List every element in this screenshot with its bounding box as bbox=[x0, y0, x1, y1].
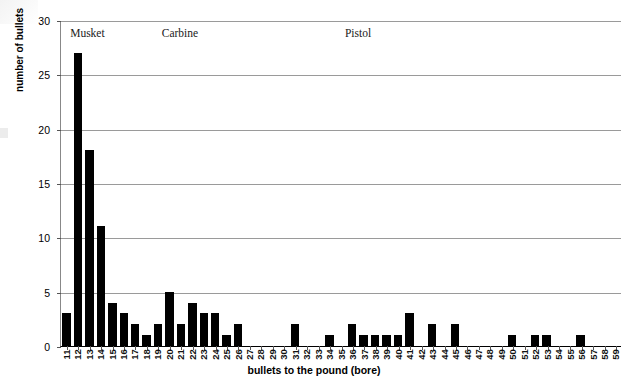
bar-26 bbox=[234, 324, 242, 346]
x-tick-label-59: 59 bbox=[611, 349, 620, 360]
x-tick-label-37: 37 bbox=[359, 349, 368, 360]
x-tick-label-52: 52 bbox=[531, 349, 540, 360]
bar-cell bbox=[130, 21, 141, 346]
bar-cell bbox=[164, 21, 175, 346]
bar-19 bbox=[154, 324, 162, 346]
bar-25 bbox=[222, 335, 230, 346]
bar-34 bbox=[325, 335, 333, 346]
x-tick-label-41: 41 bbox=[405, 349, 414, 360]
bar-50 bbox=[508, 335, 516, 346]
y-tick-label-0: 0 bbox=[24, 342, 50, 352]
bar-cell bbox=[415, 21, 426, 346]
x-tick-label-24: 24 bbox=[210, 349, 219, 360]
bar-39 bbox=[382, 335, 390, 346]
bar-cell bbox=[209, 21, 220, 346]
x-tick-label-56: 56 bbox=[577, 349, 586, 360]
bar-cell bbox=[175, 21, 186, 346]
bar-cell bbox=[312, 21, 323, 346]
bar-cell bbox=[255, 21, 266, 346]
bar-31 bbox=[291, 324, 299, 346]
x-tick-label-55: 55 bbox=[565, 349, 574, 360]
x-tick-label-58: 58 bbox=[600, 349, 609, 360]
bar-45 bbox=[451, 324, 459, 346]
bar-cell bbox=[427, 21, 438, 346]
x-tick-label-39: 39 bbox=[382, 349, 391, 360]
bar-23 bbox=[200, 313, 208, 346]
x-tick-label-51: 51 bbox=[519, 349, 528, 360]
x-tick-label-54: 54 bbox=[554, 349, 563, 360]
bullet-bore-histogram: number of bullets 051015202530 MusketCar… bbox=[0, 0, 628, 383]
bar-cell bbox=[221, 21, 232, 346]
bar-17 bbox=[131, 324, 139, 346]
x-tick-label-21: 21 bbox=[176, 349, 185, 360]
bar-cell bbox=[575, 21, 586, 346]
bar-cell bbox=[301, 21, 312, 346]
x-tick-label-16: 16 bbox=[118, 349, 127, 360]
y-tick-label-5: 5 bbox=[24, 288, 50, 298]
bar-cell bbox=[152, 21, 163, 346]
bar-cell bbox=[598, 21, 609, 346]
bar-14 bbox=[97, 226, 105, 346]
x-tick-label-33: 33 bbox=[313, 349, 322, 360]
bar-cell bbox=[141, 21, 152, 346]
bar-cell bbox=[484, 21, 495, 346]
bar-series bbox=[61, 21, 621, 346]
bar-cell bbox=[118, 21, 129, 346]
bar-cell bbox=[267, 21, 278, 346]
bar-21 bbox=[177, 324, 185, 346]
y-axis-tick-labels: 051015202530 bbox=[20, 0, 50, 383]
x-tick-label-25: 25 bbox=[222, 349, 231, 360]
bar-52 bbox=[531, 335, 539, 346]
x-tick-label-35: 35 bbox=[336, 349, 345, 360]
x-tick-label-48: 48 bbox=[485, 349, 494, 360]
x-tick-label-14: 14 bbox=[96, 349, 105, 360]
x-tick-label-11: 11 bbox=[61, 349, 70, 359]
bar-cell bbox=[324, 21, 335, 346]
x-tick-label-42: 42 bbox=[416, 349, 425, 360]
bar-cell bbox=[369, 21, 380, 346]
x-tick-label-20: 20 bbox=[164, 349, 173, 360]
x-tick-label-49: 49 bbox=[496, 349, 505, 360]
bar-cell bbox=[107, 21, 118, 346]
x-tick-label-34: 34 bbox=[325, 349, 334, 360]
x-tick-label-47: 47 bbox=[474, 349, 483, 360]
plot-inner: MusketCarbinePistol bbox=[61, 21, 621, 346]
x-tick-label-32: 32 bbox=[302, 349, 311, 360]
bar-18 bbox=[142, 335, 150, 346]
bar-cell bbox=[518, 21, 529, 346]
x-tick-label-18: 18 bbox=[141, 349, 150, 360]
bar-cell bbox=[358, 21, 369, 346]
bar-cell bbox=[541, 21, 552, 346]
bar-cell bbox=[347, 21, 358, 346]
bar-cell bbox=[404, 21, 415, 346]
bar-40 bbox=[394, 335, 402, 346]
bar-cell bbox=[72, 21, 83, 346]
x-tick-label-17: 17 bbox=[130, 349, 139, 360]
x-tick-label-44: 44 bbox=[439, 349, 448, 360]
bar-38 bbox=[371, 335, 379, 346]
bar-cell bbox=[529, 21, 540, 346]
bar-cell bbox=[449, 21, 460, 346]
plot-area: MusketCarbinePistol bbox=[60, 21, 621, 347]
bar-15 bbox=[108, 303, 116, 346]
x-tick-label-40: 40 bbox=[393, 349, 402, 360]
x-tick-label-22: 22 bbox=[187, 349, 196, 360]
bar-56 bbox=[576, 335, 584, 346]
bar-cell bbox=[461, 21, 472, 346]
x-tick-label-50: 50 bbox=[508, 349, 517, 360]
bar-cell bbox=[198, 21, 209, 346]
bar-13 bbox=[85, 150, 93, 346]
x-tick-label-26: 26 bbox=[233, 349, 242, 360]
x-tick-label-38: 38 bbox=[370, 349, 379, 360]
x-tick-label-45: 45 bbox=[451, 349, 460, 360]
bar-cell bbox=[84, 21, 95, 346]
bar-cell bbox=[552, 21, 563, 346]
bar-24 bbox=[211, 313, 219, 346]
bar-cell bbox=[495, 21, 506, 346]
bar-cell bbox=[244, 21, 255, 346]
bar-cell bbox=[278, 21, 289, 346]
bar-11 bbox=[62, 313, 70, 346]
x-tick-label-46: 46 bbox=[462, 349, 471, 360]
x-tick-label-13: 13 bbox=[84, 349, 93, 360]
y-tick-label-20: 20 bbox=[24, 125, 50, 135]
